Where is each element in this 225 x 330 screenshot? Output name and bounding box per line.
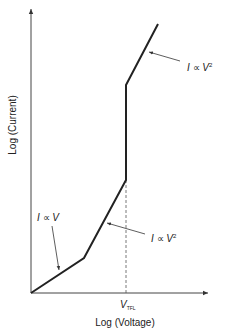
ohmic-pointer-arrow — [52, 226, 59, 270]
y-axis-title: Log (Current) — [7, 95, 18, 154]
sclc-lower-label: I ∝ V2 — [151, 233, 177, 244]
sclc-upper-label: I ∝ V2 — [187, 62, 213, 73]
iv-log-log-diagram: I ∝ V I ∝ V2 I ∝ V2 VTFL Log (Voltage) L… — [0, 0, 225, 330]
x-axis-title: Log (Voltage) — [95, 317, 155, 328]
sclc-upper-pointer-arrow — [149, 52, 180, 61]
ohmic-label: I ∝ V — [37, 212, 60, 223]
vtfl-label: VTFL — [120, 299, 136, 311]
iv-curve — [31, 24, 158, 293]
